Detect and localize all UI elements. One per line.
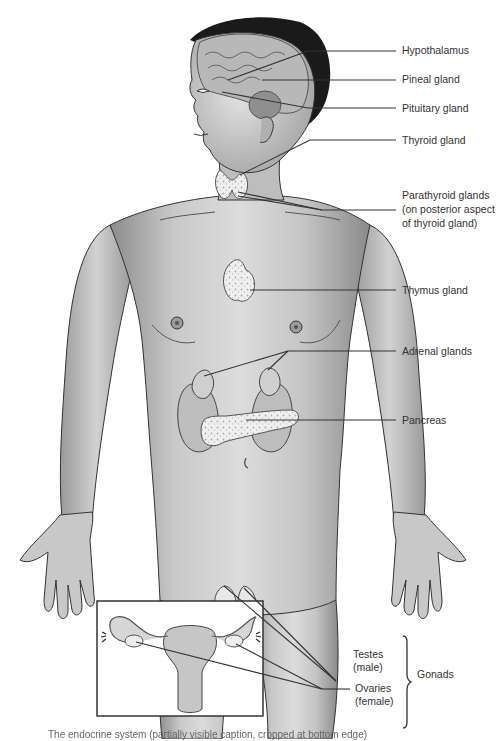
right-ovary <box>225 635 243 647</box>
right-arm <box>354 225 425 522</box>
label-parathyroid-line2: (on posterior aspect <box>402 203 495 216</box>
label-ovaries: Ovaries <box>355 682 391 695</box>
label-thymus-gland: Thymus gland <box>402 284 468 297</box>
label-ovaries-female: (female) <box>355 695 394 708</box>
label-pituitary-gland: Pituitary gland <box>402 102 469 115</box>
right-hand <box>392 512 466 619</box>
label-gonads: Gonads <box>417 668 454 680</box>
left-arm <box>60 225 132 522</box>
label-testes: Testes <box>353 648 383 661</box>
label-pineal-gland: Pineal gland <box>402 73 460 86</box>
label-testes-male: (male) <box>353 661 383 674</box>
eye <box>197 89 209 93</box>
label-parathyroid-line1: Parathyroid glands <box>402 189 490 202</box>
torso <box>110 196 370 615</box>
label-adrenal-glands: Adrenal glands <box>402 345 472 358</box>
label-hypothalamus: Hypothalamus <box>402 44 469 57</box>
left-hand <box>20 512 94 619</box>
cerebellum <box>249 91 281 119</box>
left-ovary <box>125 635 143 647</box>
right-adrenal <box>259 368 280 396</box>
figure-caption-cropped: The endocrine system (partially visible … <box>0 729 503 741</box>
label-pancreas: Pancreas <box>402 414 446 427</box>
label-thyroid-gland: Thyroid gland <box>402 134 466 147</box>
label-parathyroid-line3: of thyroid gland) <box>402 217 477 230</box>
gonads-brace <box>403 636 411 728</box>
